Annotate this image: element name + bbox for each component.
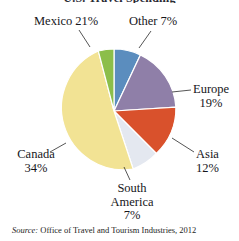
source-text: Office of Travel and Tourism Industries,… bbox=[40, 225, 196, 235]
slice-label-south-america-line1: South bbox=[103, 182, 161, 196]
leader-line-asia bbox=[172, 138, 194, 152]
slice-label-europe: Europe 19% bbox=[193, 83, 229, 110]
source-note: Source: Office of Travel and Tourism Ind… bbox=[12, 225, 196, 236]
source-label: Source: bbox=[12, 225, 38, 235]
slice-label-south-america-pct: 7% bbox=[103, 209, 161, 223]
slice-label-asia-name: Asia bbox=[196, 148, 219, 162]
slice-label-canada: Canada 34% bbox=[7, 148, 65, 175]
leader-line-europe bbox=[172, 90, 191, 92]
leader-line-other bbox=[139, 31, 151, 48]
slice-label-mexico: Mexico 21% bbox=[34, 15, 98, 29]
slice-label-asia: Asia 12% bbox=[196, 148, 219, 175]
pie-slices bbox=[61, 49, 175, 170]
leader-line-mexico bbox=[79, 30, 90, 47]
slice-label-europe-pct: 19% bbox=[193, 97, 229, 111]
slice-label-south-america: South America 7% bbox=[103, 182, 161, 223]
slice-label-south-america-line2: America bbox=[103, 196, 161, 210]
slice-label-asia-pct: 12% bbox=[196, 162, 219, 176]
pie-chart-figure: U.S. Travel Spending M bbox=[0, 0, 239, 241]
slice-label-other: Other 7% bbox=[129, 15, 177, 29]
slice-label-europe-name: Europe bbox=[193, 83, 229, 97]
slice-label-canada-name: Canada bbox=[7, 148, 65, 162]
slice-label-canada-pct: 34% bbox=[7, 162, 65, 176]
chart-area: Mexico 21% Other 7% Europe 19% Asia 12% … bbox=[0, 0, 239, 222]
